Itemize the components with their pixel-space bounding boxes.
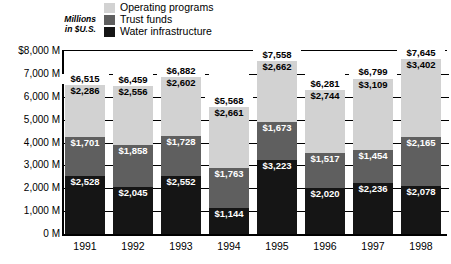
gridline-tick	[105, 97, 113, 98]
gridline-tick	[249, 188, 257, 189]
gridline-tick	[201, 165, 209, 166]
gridline-tick	[345, 120, 353, 121]
gridline-tick	[249, 74, 257, 75]
bar-total-label-1992: $6,459	[109, 75, 157, 85]
bar-segment-water-infrastructure-1996[interactable]: $2,020	[305, 188, 345, 234]
bar-segment-water-infrastructure-1992[interactable]: $2,045	[113, 187, 153, 234]
gridline-tick	[153, 188, 161, 189]
gridline-tick	[153, 211, 161, 212]
gridline-tick	[393, 143, 401, 144]
gridline-tick	[441, 120, 449, 121]
gridline-tick	[393, 120, 401, 121]
bar-segment-trust-funds-1994[interactable]: $1,763	[209, 168, 249, 208]
bar-segment-value-label: $1,858	[113, 146, 153, 156]
gridline-tick	[345, 211, 353, 212]
gridline-tick	[297, 120, 305, 121]
chart-legend: Operating programs Trust funds Water inf…	[104, 2, 213, 37]
gridline-tick	[297, 188, 305, 189]
bar-segment-value-label: $2,552	[161, 177, 201, 187]
bar-segment-value-label: $1,144	[209, 209, 249, 219]
bar-segment-water-infrastructure-1998[interactable]: $2,078	[401, 186, 441, 234]
gridline-tick	[297, 165, 305, 166]
bar-segment-water-infrastructure-1994[interactable]: $1,144	[209, 208, 249, 234]
bar-group-1996[interactable]: $2,744$1,517$2,020$6,281	[305, 90, 345, 234]
gridline-tick	[249, 165, 257, 166]
y-axis-tick-label: 2,000 M	[2, 183, 60, 193]
bar-group-1993[interactable]: $2,602$1,728$2,552$6,882	[161, 77, 201, 234]
bar-segment-trust-funds-1993[interactable]: $1,728	[161, 136, 201, 176]
gridline-tick	[441, 165, 449, 166]
bar-segment-water-infrastructure-1993[interactable]: $2,552	[161, 176, 201, 234]
gridline-tick	[441, 188, 449, 189]
legend-label-trust-funds: Trust funds	[120, 14, 172, 25]
bar-segment-value-label: $2,556	[113, 87, 153, 97]
gridline-tick	[201, 211, 209, 212]
x-axis-tick-label-1998: 1998	[397, 240, 445, 252]
y-axis-title-line2: in $U.S.	[0, 24, 96, 34]
bar-segment-value-label: $1,673	[257, 123, 297, 133]
bar-group-1995[interactable]: $2,662$1,673$3,223$7,558	[257, 61, 297, 234]
bar-segment-value-label: $2,045	[113, 188, 153, 198]
bar-segment-value-label: $2,602	[161, 78, 201, 88]
y-axis-title: Millions in $U.S.	[0, 14, 96, 34]
bar-segment-value-label: $2,286	[65, 86, 105, 96]
x-axis-tick-label-1996: 1996	[301, 240, 349, 252]
bar-segment-trust-funds-1992[interactable]: $1,858	[113, 145, 153, 188]
bar-segment-value-label: $2,165	[401, 138, 441, 148]
bar-total-label-1993: $6,882	[157, 66, 205, 76]
bar-segment-water-infrastructure-1997[interactable]: $2,236	[353, 183, 393, 234]
bar-segment-value-label: $3,109	[353, 80, 393, 90]
bar-group-1997[interactable]: $3,109$1,454$2,236$6,799	[353, 79, 393, 235]
bar-segment-operating-programs-1991[interactable]: $2,286	[65, 85, 105, 137]
bar-segment-value-label: $2,661	[209, 108, 249, 118]
bar-segment-trust-funds-1995[interactable]: $1,673	[257, 122, 297, 160]
y-axis-tick-label: 1,000 M	[2, 206, 60, 216]
legend-label-water-infrastructure: Water infrastructure	[120, 26, 212, 37]
bar-segment-value-label: $2,528	[65, 177, 105, 187]
bar-group-1994[interactable]: $2,661$1,763$1,144$5,568	[209, 107, 249, 234]
gridline-tick	[441, 143, 449, 144]
y-axis-tick-label: $8,000 M	[2, 46, 60, 56]
bar-segment-trust-funds-1996[interactable]: $1,517	[305, 153, 345, 188]
bar-segment-water-infrastructure-1991[interactable]: $2,528	[65, 176, 105, 234]
bar-segment-operating-programs-1996[interactable]: $2,744	[305, 90, 345, 153]
bar-segment-operating-programs-1994[interactable]: $2,661	[209, 107, 249, 168]
gridline-tick	[201, 143, 209, 144]
bar-group-1991[interactable]: $2,286$1,701$2,528$6,515	[65, 85, 105, 234]
bar-group-1992[interactable]: $2,556$1,858$2,045$6,459	[113, 86, 153, 234]
gridline-tick	[249, 143, 257, 144]
x-axis-tick-label-1992: 1992	[109, 240, 157, 252]
x-axis-tick-label-1995: 1995	[253, 240, 301, 252]
gridline-tick	[201, 188, 209, 189]
gridline-tick	[441, 74, 449, 75]
bar-segment-operating-programs-1997[interactable]: $3,109	[353, 79, 393, 150]
bar-segment-value-label: $2,078	[401, 187, 441, 197]
gridline-tick	[105, 165, 113, 166]
bar-segment-operating-programs-1995[interactable]: $2,662	[257, 61, 297, 122]
bar-segment-operating-programs-1992[interactable]: $2,556	[113, 86, 153, 144]
y-axis-tick-label: 3,000 M	[2, 160, 60, 170]
y-axis-tick-labels: $8,000 M7,000 M6,000 M5,000 M4,000 M3,00…	[0, 51, 60, 234]
bar-total-label-1997: $6,799	[349, 67, 397, 77]
bar-segment-trust-funds-1998[interactable]: $2,165	[401, 137, 441, 187]
bar-segment-trust-funds-1997[interactable]: $1,454	[353, 150, 393, 183]
gridline-tick	[105, 211, 113, 212]
y-axis-title-line1: Millions	[0, 14, 96, 24]
legend-label-operating-programs: Operating programs	[120, 2, 213, 13]
bar-segment-trust-funds-1991[interactable]: $1,701	[65, 137, 105, 176]
bar-segment-value-label: $1,763	[209, 169, 249, 179]
bar-total-label-1995: $7,558	[253, 50, 301, 60]
gridline-tick	[393, 211, 401, 212]
legend-item-trust-funds: Trust funds	[104, 14, 213, 25]
bar-segment-value-label: $2,744	[305, 91, 345, 101]
bar-segment-water-infrastructure-1995[interactable]: $3,223	[257, 160, 297, 234]
bar-segment-operating-programs-1993[interactable]: $2,602	[161, 77, 201, 137]
gridline-tick	[441, 97, 449, 98]
legend-swatch-water-infrastructure	[104, 27, 115, 37]
bar-group-1998[interactable]: $3,402$2,165$2,078$7,645	[401, 59, 441, 234]
legend-swatch-operating-programs	[104, 3, 115, 13]
bar-segment-operating-programs-1998[interactable]: $3,402	[401, 59, 441, 137]
bar-total-label-1991: $6,515	[61, 74, 109, 84]
bar-segment-value-label: $2,236	[353, 184, 393, 194]
y-axis-tick-label: 6,000 M	[2, 92, 60, 102]
